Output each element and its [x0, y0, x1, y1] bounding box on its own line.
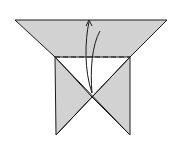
origami-diagram [0, 0, 174, 144]
right-flap [92, 57, 130, 135]
top-triangle [15, 20, 167, 57]
